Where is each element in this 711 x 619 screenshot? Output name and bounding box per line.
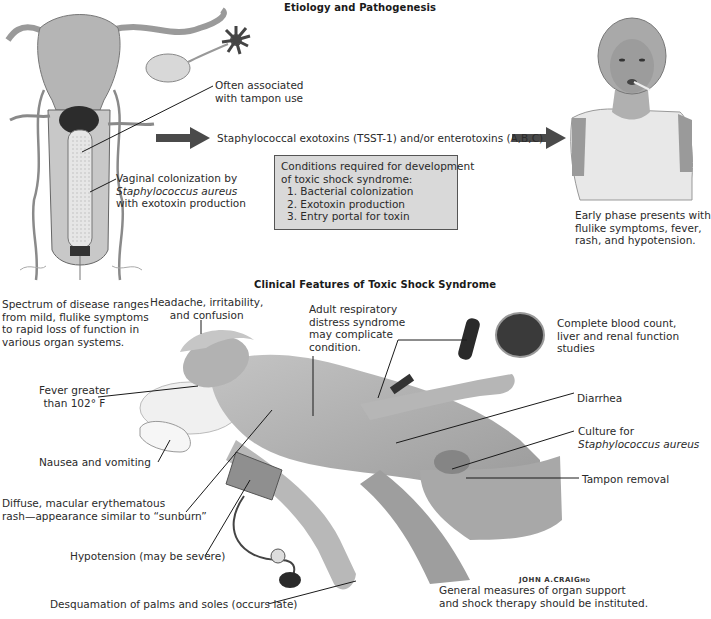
arrow-right-icon [156, 127, 210, 149]
ards-label: Adult respiratory distress syndrome may … [309, 303, 405, 353]
early-phase-label: Early phase presents with flulike sympto… [575, 209, 711, 247]
fever-label: Fever greater than 102° F [39, 384, 110, 409]
condition-item: 2. Exotoxin production [281, 198, 451, 211]
early-phase-patient-illustration [571, 18, 693, 200]
tampon-use-label: Often associated with tampon use [215, 79, 304, 104]
hypotension-label: Hypotension (may be severe) [70, 550, 225, 563]
headache-label: Headache, irritability, and confusion [150, 296, 263, 321]
diarrhea-label: Diarrhea [577, 392, 622, 405]
clinical-patient-illustration [140, 313, 562, 589]
exotoxins-label: Staphylococcal exotoxins (TSST-1) and/or… [217, 132, 543, 145]
condition-item: 1. Bacterial colonization [281, 185, 451, 198]
etiology-title: Etiology and Pathogenesis [284, 2, 436, 13]
general-measures-label: General measures of organ support and sh… [439, 584, 648, 609]
blood-tests-label: Complete blood count, liver and renal fu… [557, 317, 679, 355]
condition-item: 3. Entry portal for toxin [281, 210, 451, 223]
culture-label: Culture for Staphylococcus aureus [578, 425, 699, 450]
spectrum-label: Spectrum of disease ranges from mild, fl… [2, 298, 149, 348]
tampon-removal-label: Tampon removal [582, 473, 669, 486]
clinical-features-title: Clinical Features of Toxic Shock Syndrom… [254, 279, 496, 290]
vaginal-colonization-label: Vaginal colonization by Staphylococcus a… [116, 172, 246, 210]
desquamation-label: Desquamation of palms and soles (occurs … [50, 598, 297, 611]
artist-signature: JOHN A.CRAIG [519, 576, 580, 584]
conditions-box: Conditions required for development of t… [274, 155, 458, 230]
rash-label: Diffuse, macular erythematous rash—appea… [2, 497, 207, 522]
nausea-label: Nausea and vomiting [39, 456, 151, 469]
uterus-illustration [8, 10, 250, 280]
